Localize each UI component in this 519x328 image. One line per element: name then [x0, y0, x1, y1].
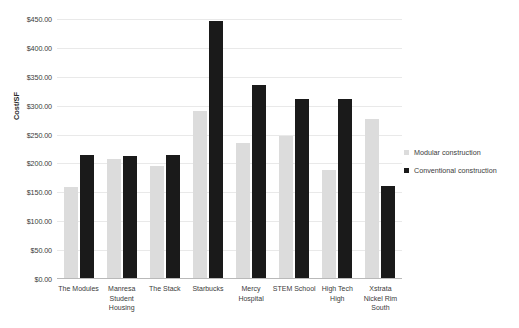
y-axis-tick-label: $0.00: [35, 275, 53, 284]
x-axis-category-label: Starbucks: [186, 284, 229, 294]
bar: [123, 156, 137, 279]
x-axis-label-line: Housing: [100, 303, 143, 313]
y-axis-tick-label: $350.00: [27, 72, 52, 81]
bar: [365, 119, 379, 279]
bar: [322, 170, 336, 279]
y-axis-tick-label: $400.00: [27, 43, 52, 52]
x-axis-category-labels: The ModulesManresaStudentHousingThe Stac…: [57, 284, 402, 328]
bar: [80, 155, 94, 279]
x-axis-label-line: Xstrata: [359, 284, 402, 294]
legend-label: Conventional construction: [414, 166, 497, 175]
y-axis-tick-label: $50.00: [31, 246, 52, 255]
bar: [209, 21, 223, 279]
x-axis-label-line: Mercy: [230, 284, 273, 294]
x-axis-label-line: Manresa: [100, 284, 143, 294]
bar-group: [359, 19, 402, 279]
bar: [193, 111, 207, 279]
bar: [150, 166, 164, 279]
x-axis-label-line: The Modules: [57, 284, 100, 294]
x-axis-label-line: STEM School: [273, 284, 316, 294]
x-axis-category-label: MercyHospital: [230, 284, 273, 303]
bar: [107, 159, 121, 279]
bar: [295, 99, 309, 279]
x-axis-label-line: High: [316, 294, 359, 304]
x-axis-category-label: The Modules: [57, 284, 100, 294]
bar-group: [100, 19, 143, 279]
bar-group: [273, 19, 316, 279]
x-axis-category-label: High TechHigh: [316, 284, 359, 303]
y-axis-tick-label: $300.00: [27, 101, 52, 110]
bar: [381, 186, 395, 279]
x-axis-baseline: [57, 278, 402, 279]
x-axis-category-label: ManresaStudentHousing: [100, 284, 143, 313]
bar: [166, 155, 180, 279]
bar-group: [143, 19, 186, 279]
x-axis-label-line: Hospital: [230, 294, 273, 304]
bar-group: [316, 19, 359, 279]
chart-legend: Modular constructionConventional constru…: [404, 148, 516, 184]
x-axis-label-line: Student: [100, 294, 143, 304]
legend-swatch-icon: [404, 168, 409, 173]
y-axis-tick-label: $250.00: [27, 130, 52, 139]
x-axis-category-label: The Stack: [143, 284, 186, 294]
bar: [338, 99, 352, 279]
x-axis-category-label: XstrataNickel RimSouth: [359, 284, 402, 313]
bar: [64, 187, 78, 279]
y-axis-tick-labels: $450.00$400.00$350.00$300.00$250.00$200.…: [0, 19, 52, 279]
plot-area: [57, 19, 402, 279]
x-axis-label-line: The Stack: [143, 284, 186, 294]
bar: [236, 143, 250, 279]
y-axis-tick-label: $100.00: [27, 217, 52, 226]
bar: [252, 85, 266, 279]
y-axis-tick-label: $450.00: [27, 15, 52, 24]
y-axis-tick-label: $200.00: [27, 159, 52, 168]
bar-group: [57, 19, 100, 279]
bar: [279, 136, 293, 279]
legend-item[interactable]: Modular construction: [404, 148, 516, 157]
legend-swatch-icon: [404, 150, 409, 155]
x-axis-label-line: South: [359, 303, 402, 313]
bar-chart: Cost/SF $450.00$400.00$350.00$300.00$250…: [0, 0, 519, 328]
x-axis-label-line: High Tech: [316, 284, 359, 294]
y-axis-tick-label: $150.00: [27, 188, 52, 197]
x-axis-label-line: Starbucks: [186, 284, 229, 294]
x-axis-label-line: Nickel Rim: [359, 294, 402, 304]
legend-label: Modular construction: [414, 148, 481, 157]
bar-group: [186, 19, 229, 279]
x-axis-category-label: STEM School: [273, 284, 316, 294]
bar-group: [230, 19, 273, 279]
legend-item[interactable]: Conventional construction: [404, 166, 516, 175]
